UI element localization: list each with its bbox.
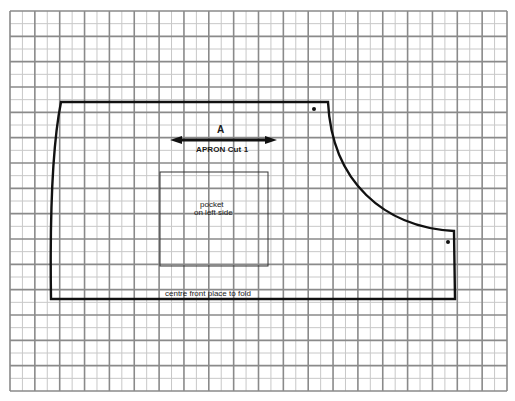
dot-top-icon — [312, 107, 316, 111]
pattern-canvas — [0, 0, 515, 401]
fold-edge-label: centre front place to fold — [165, 289, 251, 298]
pocket-label-line2: on left side — [194, 208, 233, 217]
grainline-label: A — [217, 124, 224, 135]
piece-title-label: APRON Cut 1 — [196, 145, 248, 154]
grid-major-lines — [10, 11, 507, 391]
dot-right-icon — [446, 240, 450, 244]
